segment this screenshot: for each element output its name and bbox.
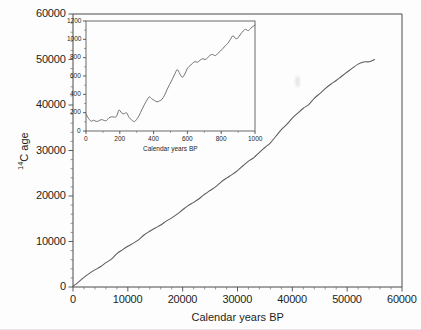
- inset-xtick-label: 400: [148, 135, 159, 142]
- main-axis-frame: [73, 14, 402, 287]
- main-y-axis-title-text: C age: [18, 132, 30, 161]
- main-axis-spines: [73, 14, 402, 287]
- scan-artifact: [295, 76, 300, 87]
- inset-ytick-label: 1000: [67, 35, 81, 42]
- main-xtick-label: 30000: [223, 293, 253, 305]
- main-xtick-label: 60000: [387, 293, 417, 305]
- main-x-axis-title: Calendar years BP: [192, 311, 284, 323]
- inset-ytick-label: 1200: [67, 17, 81, 24]
- inset-ytick-label: 800: [70, 53, 81, 60]
- main-ytick-label: 30000: [36, 144, 66, 156]
- inset-ytick-label: 400: [70, 90, 81, 97]
- inset-xtick-label: 1000: [248, 135, 262, 142]
- inset-xtick-label: 0: [84, 135, 88, 142]
- inset-ytick-label: 200: [70, 108, 81, 115]
- main-ytick-label: 0: [60, 280, 66, 292]
- inset-xtick-label: 200: [114, 135, 125, 142]
- main-y-axis-title-superscript: 14: [16, 161, 25, 169]
- main-ytick-label: 10000: [36, 235, 66, 247]
- inset-x-axis-title: Calendar years BP: [143, 145, 198, 152]
- main-calibration-curve: [73, 60, 375, 287]
- inset-calibration-curve: [86, 25, 255, 121]
- main-xtick-label: 10000: [113, 293, 143, 305]
- main-ytick-label: 20000: [36, 189, 66, 201]
- inset-ytick-label: 0: [77, 127, 81, 134]
- inset-xtick-label: 600: [182, 135, 193, 142]
- inset-frame: [86, 21, 255, 131]
- main-ytick-label: 40000: [36, 98, 66, 110]
- main-xtick-label: 0: [70, 293, 76, 305]
- figure-root: 0 10000 20000 30000 40000 50000 60000 0 …: [0, 0, 421, 330]
- inset-xtick-label: 800: [216, 135, 227, 142]
- main-ytick-label: 50000: [36, 53, 66, 65]
- main-y-axis-title: 14C age: [16, 132, 30, 170]
- main-xtick-label: 50000: [332, 293, 362, 305]
- main-xtick-label: 40000: [277, 293, 307, 305]
- main-ytick-label: 60000: [36, 7, 66, 19]
- main-xtick-label: 20000: [168, 293, 198, 305]
- inset-ytick-label: 600: [70, 72, 81, 79]
